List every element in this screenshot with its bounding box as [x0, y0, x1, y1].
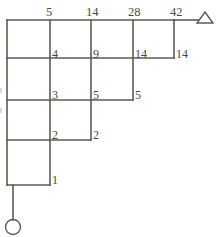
label-row3-3: 5: [135, 89, 141, 101]
scan-artifact-left-2: [0, 108, 2, 113]
circle-pin-support-icon: [6, 220, 21, 235]
label-top-3: 28: [128, 6, 141, 19]
label-top-4: 42: [170, 6, 183, 19]
label-row2-1: 4: [52, 48, 58, 60]
staircase-grid-svg: [0, 0, 220, 237]
label-top-2: 14: [86, 6, 99, 19]
label-row2-3: 14: [135, 48, 147, 60]
label-row4-2: 2: [93, 129, 99, 141]
label-row4-1: 2: [52, 129, 58, 141]
label-row2-2: 9: [93, 48, 99, 60]
triangle-roller-support-icon: [197, 12, 213, 23]
label-row3-1: 3: [52, 89, 58, 101]
label-top-1: 5: [46, 6, 52, 19]
label-row3-2: 5: [93, 89, 99, 101]
diagram-canvas: 5 14 28 42 4 9 14 14 3 5 5 2 2 1: [0, 0, 220, 237]
label-row5-1: 1: [52, 174, 58, 186]
scan-artifact-left-1: [0, 88, 2, 93]
label-row2-4: 14: [176, 48, 188, 60]
